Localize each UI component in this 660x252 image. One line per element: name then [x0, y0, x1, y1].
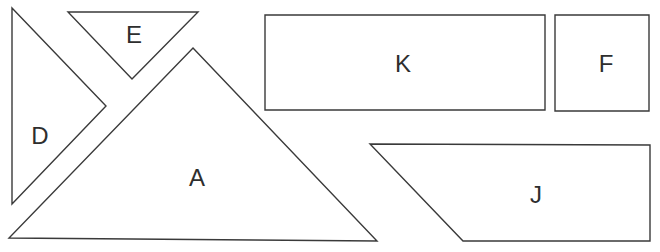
piece-e: E — [68, 12, 198, 79]
label-a: A — [189, 164, 205, 191]
piece-j: J — [370, 144, 650, 241]
label-k: K — [395, 50, 411, 77]
triangle-a-outline — [9, 48, 377, 241]
label-f: F — [599, 50, 614, 77]
label-j: J — [530, 181, 542, 208]
label-d: D — [31, 122, 48, 149]
piece-k: K — [265, 15, 545, 110]
label-e: E — [126, 21, 142, 48]
trapezoid-j-outline — [370, 144, 650, 241]
tangram-diagram: D E A K F J — [0, 0, 660, 252]
piece-a: A — [9, 48, 377, 241]
piece-f: F — [555, 15, 649, 111]
